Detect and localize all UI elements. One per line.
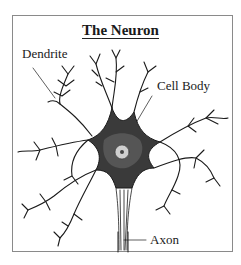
cell-body bbox=[88, 108, 160, 188]
dendrite-right bbox=[154, 110, 228, 214]
dendrite-leader-line bbox=[33, 68, 55, 98]
dendrite-upper-left bbox=[48, 66, 92, 136]
cell-body-label: Cell Body bbox=[157, 78, 210, 94]
neuron-illustration bbox=[0, 0, 241, 265]
axon bbox=[116, 188, 132, 252]
dendrite-label: Dendrite bbox=[22, 46, 67, 62]
axon-label: Axon bbox=[150, 232, 179, 248]
dendrite-upper-center bbox=[90, 50, 156, 112]
dendrite-left bbox=[18, 138, 96, 246]
